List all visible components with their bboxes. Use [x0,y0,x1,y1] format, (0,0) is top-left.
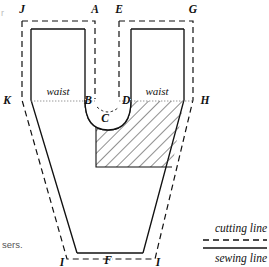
legend: cutting line sewing line [203,222,267,265]
caption-fragment: sers. [2,239,23,250]
point-label-B: B [83,94,92,106]
point-label-F: F [103,254,112,266]
point-label-I-left: I [59,256,65,267]
point-label-C: C [101,112,109,124]
point-label-J: J [18,3,26,15]
point-label-K: K [2,94,12,106]
hatched-seat-region [85,99,184,167]
legend-sewing-line-label: sewing line [215,252,267,265]
point-label-H: H [200,94,211,106]
pattern-diagram-canvas: J A E G K B D H C I F I waist waist cutt… [0,0,269,267]
trousers-pattern-svg: J A E G K B D H C I F I waist waist cutt… [0,0,269,267]
point-label-D: D [121,94,131,106]
point-label-A: A [90,3,99,15]
edge-fragment: r [1,8,4,18]
waist-label-right: waist [145,85,169,97]
point-label-E: E [114,3,123,15]
legend-cutting-line-label: cutting line [215,222,267,235]
point-label-I-right: I [155,256,161,267]
waist-label-left: waist [46,85,70,97]
point-label-G: G [189,3,198,15]
